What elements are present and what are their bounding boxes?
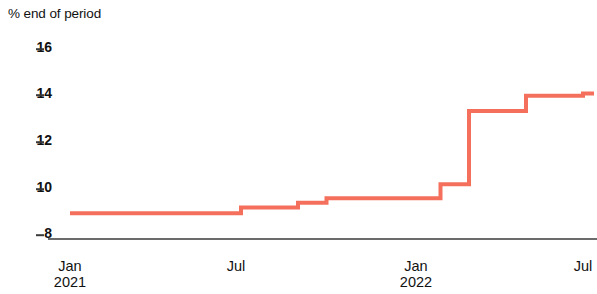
chart-container: % end of period 16 14 12 10 8 Jan 2021 J… <box>0 0 597 294</box>
series-line-policy-rate <box>70 94 594 214</box>
plot-area <box>0 0 597 294</box>
